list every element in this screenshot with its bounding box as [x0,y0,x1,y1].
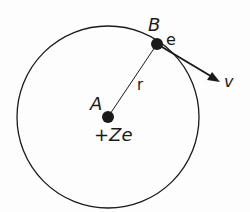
label-a: A [90,95,102,113]
label-b: B [148,16,160,34]
velocity-vector [157,44,214,78]
label-e: e [166,32,176,48]
nucleus-dot [102,111,114,123]
label-r: r [137,78,143,93]
bohr-orbit-diagram [0,0,250,212]
label-v: v [224,74,233,90]
label-plus-ze: +Ze [94,126,133,144]
velocity-arrowhead [207,72,220,82]
electron-dot [151,38,163,50]
radius-line [108,44,157,117]
